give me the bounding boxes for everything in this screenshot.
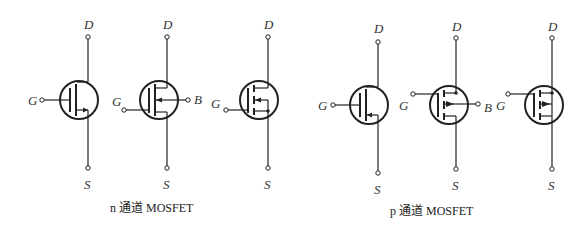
drain-label: D <box>547 19 558 34</box>
drain-terminal <box>454 36 458 40</box>
drain-label: D <box>451 19 462 34</box>
gate-terminal <box>224 108 228 112</box>
drain-terminal <box>165 35 169 39</box>
arrow-icon <box>542 101 550 107</box>
source-label: S <box>548 178 555 193</box>
body-terminal <box>476 102 480 106</box>
body-terminal <box>186 98 190 102</box>
source-terminal <box>376 171 380 175</box>
gate-label: G <box>399 98 409 113</box>
n-channel-caption: n 通道 MOSFET <box>110 201 194 215</box>
gate-label: G <box>496 98 506 113</box>
source-terminal <box>165 166 169 170</box>
drain-terminal <box>550 36 554 40</box>
n-mosfet-symbol-3: D S G <box>211 17 278 192</box>
source-label: S <box>84 177 91 192</box>
gate-terminal <box>40 98 44 102</box>
gate-terminal <box>506 92 510 96</box>
p-mosfet-symbol-3: D S G <box>496 19 563 193</box>
p-mosfet-symbol-2: D B S G <box>399 19 492 193</box>
p-mosfet-symbol-1: D S G <box>318 21 388 197</box>
drain-label: D <box>263 17 274 32</box>
source-terminal <box>86 166 90 170</box>
gate-label: G <box>318 98 328 113</box>
source-terminal <box>550 167 554 171</box>
drain-terminal <box>266 35 270 39</box>
drain-label: D <box>373 21 384 36</box>
source-label: S <box>452 178 459 193</box>
gate-label: G <box>28 93 38 108</box>
arrow-icon <box>156 98 162 103</box>
gate-terminal <box>331 103 335 107</box>
drain-label: D <box>162 17 173 32</box>
drain-terminal <box>86 35 90 39</box>
n-mosfet-symbol-2: D B S G <box>112 17 202 192</box>
source-label: S <box>374 182 381 197</box>
source-terminal <box>266 166 270 170</box>
mosfet-symbols-diagram: D S G D B S G D <box>0 0 588 231</box>
n-mosfet-symbol-1: D S G <box>28 17 98 192</box>
gate-terminal <box>122 108 126 112</box>
p-channel-caption: p 通道 MOSFET <box>390 204 474 218</box>
body-label: B <box>194 92 202 107</box>
source-label: S <box>163 177 170 192</box>
arrow-icon <box>367 113 372 118</box>
arrow-icon <box>83 108 88 113</box>
drain-terminal <box>376 40 380 44</box>
gate-label: G <box>112 94 122 109</box>
arrow-icon <box>446 101 454 107</box>
body-label: B <box>484 100 492 115</box>
source-terminal <box>454 167 458 171</box>
gate-terminal <box>411 92 415 96</box>
arrow-icon <box>255 98 261 103</box>
source-label: S <box>264 177 271 192</box>
drain-label: D <box>83 17 94 32</box>
gate-label: G <box>211 96 221 111</box>
